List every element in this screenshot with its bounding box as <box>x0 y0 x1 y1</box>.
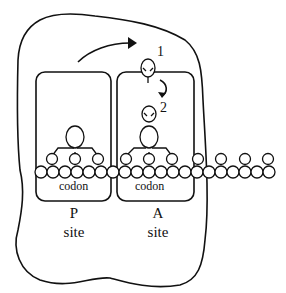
p-site-letter: P <box>54 205 94 222</box>
diagram-graphics <box>0 0 286 293</box>
a-site-letter: A <box>138 205 178 222</box>
trna-label-2: 2 <box>160 100 167 116</box>
incoming-amino-acid-1 <box>141 59 155 83</box>
p-site-word: site <box>54 224 94 241</box>
curved-arrow-right-icon <box>78 43 130 62</box>
trna-a-site <box>121 106 178 165</box>
trna-p-site <box>47 126 104 165</box>
p-site-codon-label: codon <box>59 179 88 194</box>
curved-arrow-down-icon <box>158 80 166 98</box>
trna-label-1: 1 <box>157 44 164 60</box>
a-site-codon-label: codon <box>135 179 164 194</box>
arrowhead-icon <box>128 37 137 49</box>
ribosome-diagram: 1 2 codon codon P site A site <box>0 0 286 293</box>
a-site-word: site <box>138 224 178 241</box>
